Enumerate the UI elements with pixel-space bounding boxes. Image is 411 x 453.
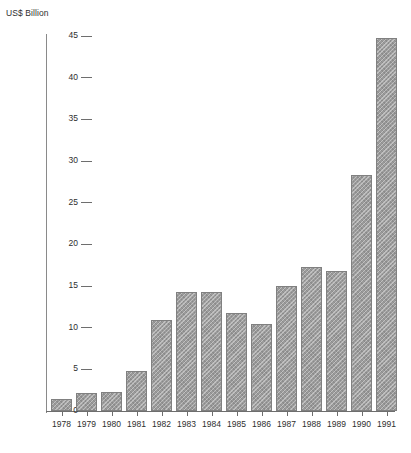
x-axis-tick-mark — [187, 411, 188, 416]
bar — [351, 175, 372, 411]
bar — [376, 38, 397, 411]
x-axis-tick-mark — [362, 411, 363, 416]
bar — [176, 292, 197, 411]
bar — [76, 393, 97, 411]
x-axis-tick-mark — [62, 411, 63, 416]
y-axis-unit-label: US$ Billion — [6, 8, 49, 18]
x-axis-tick-mark — [337, 411, 338, 416]
bar — [276, 286, 297, 411]
bars-layer — [46, 36, 401, 411]
bar — [126, 371, 147, 411]
bar — [326, 271, 347, 411]
bar-chart: US$ Billion 051015202530354045 197819791… — [0, 0, 411, 453]
x-axis-tick-mark — [237, 411, 238, 416]
x-axis-tick-mark — [262, 411, 263, 416]
x-axis-tick-label: 1991 — [371, 419, 403, 430]
bar — [51, 399, 72, 412]
bar — [151, 320, 172, 411]
x-axis-tick-mark — [112, 411, 113, 416]
x-axis-tick-mark — [212, 411, 213, 416]
bar — [301, 267, 322, 411]
x-axis-tick-mark — [162, 411, 163, 416]
x-axis-tick-mark — [137, 411, 138, 416]
bar — [201, 292, 222, 411]
bar — [101, 392, 122, 411]
x-axis-tick-mark — [387, 411, 388, 416]
bar — [226, 313, 247, 411]
x-axis-ticks: 1978197919801981198219831984198519861987… — [46, 411, 401, 451]
bar — [251, 324, 272, 411]
x-axis-tick-mark — [312, 411, 313, 416]
x-axis-tick-mark — [87, 411, 88, 416]
x-axis-tick-mark — [287, 411, 288, 416]
